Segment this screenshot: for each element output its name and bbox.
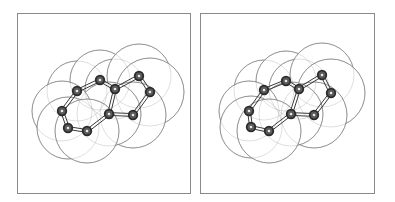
atom-ball <box>326 88 336 98</box>
atom-ball <box>95 75 105 85</box>
stereo-right-panel <box>200 13 375 194</box>
atom-ball <box>281 76 291 86</box>
atom-ball <box>145 87 155 97</box>
atom-ball <box>244 106 254 116</box>
atom-ball <box>82 126 92 136</box>
atom-ball <box>63 123 73 133</box>
atom-ball <box>110 84 120 94</box>
van-der-waals-spheres <box>219 43 365 163</box>
atom-ball <box>286 109 296 119</box>
atom-ball <box>259 85 269 95</box>
atom-ball <box>134 71 144 81</box>
atom-ball <box>128 110 138 120</box>
atom-ball <box>264 126 274 136</box>
molecule-render <box>18 14 192 195</box>
van-der-waals-spheres <box>32 44 184 163</box>
atom-ball <box>294 84 304 94</box>
atom-ball <box>317 70 327 80</box>
stereo-left-panel <box>17 13 191 194</box>
molecule-render <box>201 14 376 195</box>
atom-ball <box>309 110 319 120</box>
atom-ball <box>246 122 256 132</box>
atom-ball <box>104 109 114 119</box>
atom-ball <box>72 86 82 96</box>
atom-ball <box>57 106 67 116</box>
